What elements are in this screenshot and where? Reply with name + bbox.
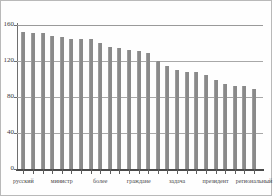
plot-area: [17, 25, 263, 169]
x-axis-tick-mark: [177, 169, 178, 174]
x-axis-tick-mark: [129, 169, 130, 174]
bar: [108, 47, 112, 169]
bar: [117, 48, 121, 170]
bar: [146, 53, 150, 169]
bar: [98, 43, 102, 169]
bar: [41, 33, 45, 169]
x-axis-tick-mark: [139, 169, 140, 174]
x-axis-tick-mark: [254, 169, 255, 174]
x-axis-tick-label: граждане: [127, 177, 151, 185]
x-axis-tick-label: задача: [169, 177, 185, 185]
x-axis-tick-mark: [187, 169, 188, 174]
x-axis-tick-mark: [235, 169, 236, 174]
bar: [89, 39, 93, 169]
bar: [31, 33, 35, 169]
y-axis-tick-label: 40: [1, 129, 14, 136]
x-axis-tick-mark: [62, 169, 63, 174]
bar: [165, 66, 169, 169]
x-axis-tick-label: министр: [51, 177, 73, 185]
bar: [252, 89, 256, 169]
x-axis-tick-mark: [244, 169, 245, 174]
y-axis-tick-label: 0: [1, 165, 14, 172]
bar: [175, 70, 179, 169]
x-axis-tick-mark: [52, 169, 53, 174]
x-axis-tick-mark: [158, 169, 159, 174]
bar: [242, 86, 246, 169]
bar: [223, 84, 227, 170]
chart-figure-frame: 04080120160 русскийминистрболеегражданез…: [0, 0, 272, 196]
y-axis-tick-label: 160: [1, 21, 14, 28]
x-axis-tick-mark: [206, 169, 207, 174]
x-axis-tick-mark: [110, 169, 111, 174]
bar: [69, 39, 73, 170]
x-axis-tick-label: русский: [13, 177, 34, 185]
x-axis-tick-label: президент: [202, 177, 228, 185]
x-axis-tick-mark: [119, 169, 120, 174]
bar: [127, 50, 131, 169]
x-axis-tick-mark: [33, 169, 34, 174]
x-axis-tick-label: региональный: [236, 177, 272, 185]
x-axis-tick-label: более: [93, 177, 107, 185]
x-axis-tick-mark: [23, 169, 24, 174]
x-axis-tick-mark: [100, 169, 101, 174]
x-axis-tick-mark: [196, 169, 197, 174]
bar: [60, 37, 64, 169]
bar: [214, 80, 218, 169]
bar: [156, 61, 160, 169]
bar: [185, 72, 189, 169]
x-axis-tick-mark: [43, 169, 44, 174]
x-axis-tick-mark: [81, 169, 82, 174]
x-axis-tick-mark: [91, 169, 92, 174]
x-axis-tick-mark: [167, 169, 168, 174]
bar: [194, 72, 198, 169]
x-axis-tick-mark: [216, 169, 217, 174]
bar: [204, 75, 208, 169]
bar: [50, 36, 54, 169]
x-axis-tick-mark: [225, 169, 226, 174]
y-axis-tick-mark: [14, 169, 17, 170]
bar: [137, 51, 141, 169]
y-axis-tick-label: 80: [1, 93, 14, 100]
x-axis-line: [16, 169, 264, 171]
bar-chart: 04080120160 русскийминистрболеегражданез…: [1, 1, 272, 196]
bar: [79, 39, 83, 170]
x-axis-tick-mark: [148, 169, 149, 174]
bar: [21, 32, 25, 169]
bar: [233, 86, 237, 169]
x-axis-tick-mark: [71, 169, 72, 174]
y-axis-tick-label: 120: [1, 57, 14, 64]
